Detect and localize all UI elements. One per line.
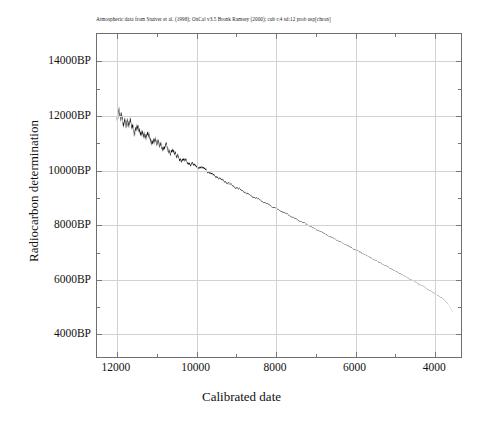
plot-area [96,33,462,358]
y-axis-tick [456,334,461,335]
y-axis-tick [97,334,102,335]
x-axis-tick [276,352,277,357]
x-axis-tick-label: 4000 [423,361,446,373]
y-axis-tick-label: 12000BP [48,109,91,121]
x-axis-tick [356,352,357,357]
chart-caption: Atmospheric data from Stuiver et al. (19… [96,16,466,22]
x-axis-tick [117,34,118,39]
y-axis-minor-tick [97,89,100,90]
x-axis-minor-tick [316,354,317,357]
y-axis-minor-tick [458,198,461,199]
y-axis-tick [456,171,461,172]
y-axis-tick-label: 6000BP [54,273,91,285]
gridline-horizontal [97,171,461,172]
gridline-vertical [435,34,436,357]
y-axis-title: Radiocarbon determination [26,71,42,311]
x-axis-tick [117,352,118,357]
y-axis-minor-tick [458,253,461,254]
x-axis-tick-label: 8000 [264,361,287,373]
x-axis-tick [197,34,198,39]
x-axis-minor-tick [157,354,158,357]
x-axis-minor-tick [236,34,237,37]
y-axis-minor-tick [458,143,461,144]
x-axis-title: Calibrated date [0,389,483,405]
gridline-vertical [117,34,118,357]
y-axis-tick [97,171,102,172]
y-axis-tick [456,225,461,226]
gridline-horizontal [97,225,461,226]
y-axis-minor-tick [458,89,461,90]
gridline-vertical [197,34,198,357]
y-axis-tick-label: 8000BP [54,218,91,230]
y-axis-tick [97,225,102,226]
x-axis-tick [435,34,436,39]
y-axis-tick [456,280,461,281]
x-axis-tick-label: 10000 [181,361,210,373]
x-axis-minor-tick [395,34,396,37]
x-axis-tick-label: 6000 [343,361,366,373]
x-axis-tick [276,34,277,39]
y-axis-minor-tick [458,307,461,308]
gridline-horizontal [97,61,461,62]
y-axis-tick-label: 4000BP [54,327,91,339]
x-axis-tick [435,352,436,357]
y-axis-tick [97,116,102,117]
gridline-horizontal [97,280,461,281]
y-axis-tick [97,280,102,281]
x-axis-minor-tick [236,354,237,357]
gridline-horizontal [97,116,461,117]
y-axis-tick-labels: 14000BP12000BP10000BP8000BP6000BP4000BP [0,0,91,422]
x-axis-minor-tick [395,354,396,357]
x-axis-tick [356,34,357,39]
x-axis-tick [197,352,198,357]
gridline-horizontal [97,334,461,335]
x-axis-tick-label: 12000 [102,361,131,373]
y-axis-tick [456,61,461,62]
radiocarbon-calibration-chart: Atmospheric data from Stuiver et al. (19… [0,0,483,422]
calibration-curve [97,34,461,357]
y-axis-minor-tick [97,143,100,144]
y-axis-tick [456,116,461,117]
x-axis-minor-tick [316,34,317,37]
y-axis-minor-tick [97,253,100,254]
x-axis-minor-tick [157,34,158,37]
gridline-vertical [276,34,277,357]
y-axis-tick [97,61,102,62]
y-axis-tick-label: 14000BP [48,54,91,66]
y-axis-minor-tick [97,198,100,199]
gridline-vertical [356,34,357,357]
y-axis-tick-label: 10000BP [48,164,91,176]
y-axis-minor-tick [97,307,100,308]
